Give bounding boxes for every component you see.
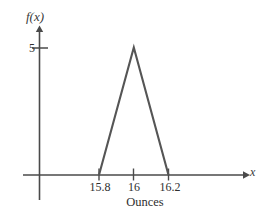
y-axis-title: f(x)	[26, 10, 44, 23]
y-tick-label-5: 5	[23, 42, 35, 54]
x-axis-symbol-label: x	[250, 166, 255, 178]
x-axis-caption: Ounces	[105, 196, 185, 209]
x-axis	[23, 171, 250, 179]
x-tick-label-16-2: 16.2	[150, 181, 190, 193]
x-tick-label-16: 16	[114, 181, 154, 193]
density-curve	[99, 48, 169, 176]
triangular-distribution-figure: f(x) x 5 15.8 16 16.2 Ounces	[0, 0, 267, 214]
y-axis	[36, 26, 43, 201]
